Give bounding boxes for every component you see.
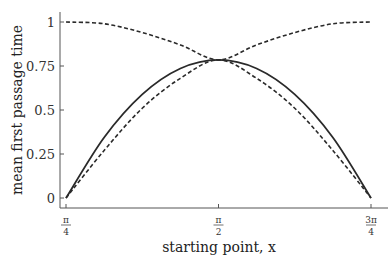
x-tick-label-numerator: π [216,215,222,225]
series-solid [66,60,371,198]
x-tick-label-denominator: 4 [63,227,69,237]
y-tick-label: 0.5 [34,103,55,118]
y-axis-label: mean first passage time [9,25,25,195]
y-tick-label: 0.25 [26,147,55,162]
chart: 00.250.50.751 π4π23π4 starting point, x … [0,0,390,271]
series-dashed-lower [66,60,371,198]
x-tick-label-numerator: π [63,215,69,225]
x-axis-label: starting point, x [162,239,276,255]
x-tick-label-denominator: 2 [216,227,222,237]
y-tick-label: 0 [47,191,55,206]
x-tick-label-denominator: 4 [368,227,374,237]
y-tick-label: 1 [47,15,55,30]
series-dashed-upper [66,22,371,60]
x-ticks: π4π23π4 [61,204,377,237]
y-tick-label: 0.75 [26,59,55,74]
y-ticks: 00.250.50.751 [26,15,64,206]
plot-series [66,22,371,198]
x-tick-label-numerator: 3π [365,215,377,225]
